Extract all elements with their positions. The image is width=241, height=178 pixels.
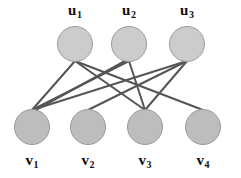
graph-node-u1 xyxy=(58,27,93,62)
graph-node-u3 xyxy=(170,27,205,62)
node-label-sub-v3: 3 xyxy=(146,159,152,170)
graph-node-v3 xyxy=(128,110,163,145)
graph-edge-u3-v1 xyxy=(32,61,187,110)
node-layer xyxy=(15,27,221,145)
node-label-sub-v4: 4 xyxy=(204,159,210,170)
node-label-sub-v2: 2 xyxy=(89,159,95,170)
node-label-base-v1: v xyxy=(26,152,34,168)
node-label-v3: v3 xyxy=(139,152,152,169)
node-label-sub-u1: 1 xyxy=(76,9,82,20)
node-label-base-v3: v xyxy=(139,152,147,168)
node-label-u2: u2 xyxy=(122,2,136,19)
node-label-base-v4: v xyxy=(197,152,205,168)
node-label-sub-u3: 3 xyxy=(188,9,194,20)
graph-node-v1 xyxy=(15,110,50,145)
edge-layer xyxy=(32,61,203,112)
bipartite-graph-figure: u1u2u3v1v2v3v4 xyxy=(0,0,241,178)
node-label-base-v2: v xyxy=(82,152,90,168)
node-label-v4: v4 xyxy=(197,152,210,169)
node-label-sub-v1: 1 xyxy=(33,159,39,170)
graph-node-v4 xyxy=(186,110,221,145)
graph-node-u2 xyxy=(112,27,147,62)
node-label-u3: u3 xyxy=(180,2,194,19)
node-label-sub-u2: 2 xyxy=(130,9,136,20)
node-label-v1: v1 xyxy=(26,152,39,169)
graph-node-v2 xyxy=(71,110,106,145)
node-label-v2: v2 xyxy=(82,152,95,169)
node-label-u1: u1 xyxy=(68,2,82,19)
graph-edge-u3-v2 xyxy=(88,61,187,110)
